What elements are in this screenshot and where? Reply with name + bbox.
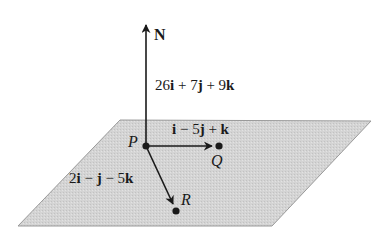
vector-pr-expression: 2i − j − 5k bbox=[69, 171, 133, 186]
normal-label: N bbox=[154, 27, 166, 43]
point-q bbox=[215, 142, 222, 149]
point-r bbox=[172, 207, 179, 214]
vector-pq-expression: i − 5j + k bbox=[172, 122, 229, 137]
point-r-label: R bbox=[181, 192, 191, 208]
point-p-label: P bbox=[128, 134, 138, 150]
diagram-canvas bbox=[0, 0, 383, 239]
point-q-label: Q bbox=[211, 153, 223, 169]
point-p bbox=[142, 142, 149, 149]
normal-vector-expression: 26i + 7j + 9k bbox=[155, 78, 234, 93]
